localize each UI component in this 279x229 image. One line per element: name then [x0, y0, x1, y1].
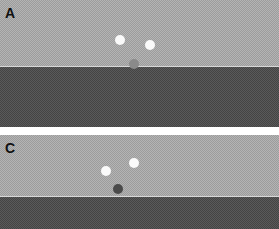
panel-a: A	[0, 0, 279, 127]
lower-dark-region	[0, 197, 279, 229]
lower-dark-region	[0, 67, 279, 127]
gray-dot	[129, 59, 139, 69]
white-dot	[101, 166, 111, 176]
darkdot-dot	[113, 184, 123, 194]
white-dot	[145, 40, 155, 50]
upper-light-region	[0, 135, 279, 196]
panel-label: A	[5, 5, 15, 21]
upper-light-region	[0, 0, 279, 66]
white-dot	[115, 35, 125, 45]
panel-label: C	[5, 140, 15, 156]
panel-c: C	[0, 135, 279, 229]
white-dot	[129, 158, 139, 168]
